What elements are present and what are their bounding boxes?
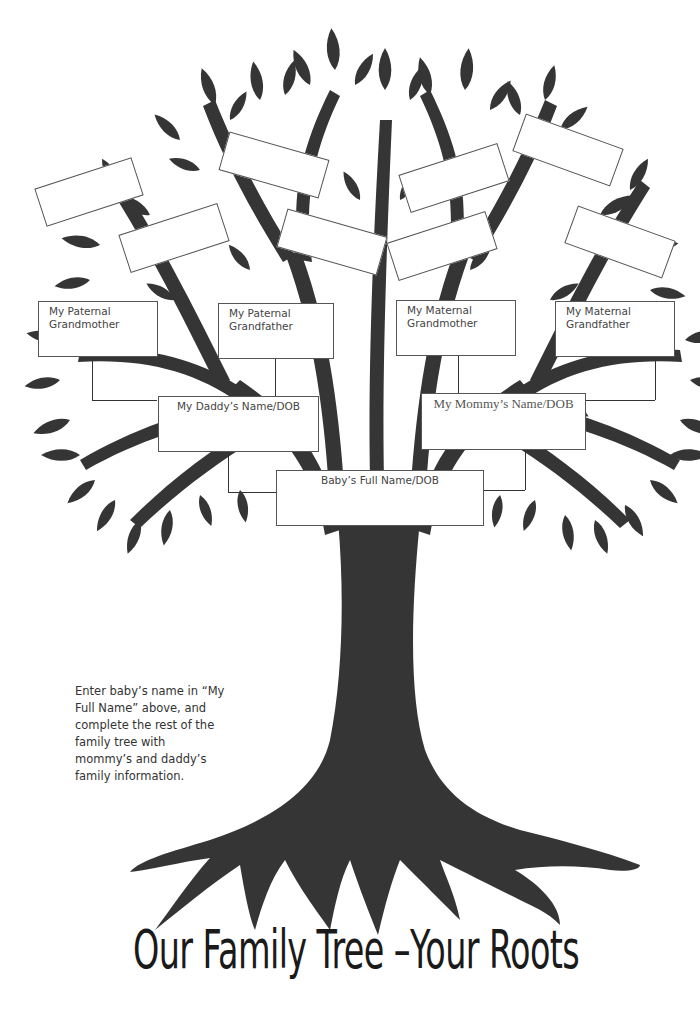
connector-line	[586, 400, 655, 401]
connector-line	[92, 355, 93, 400]
daddy-box[interactable]: My Daddy’s Name/DOB	[158, 396, 319, 452]
paternal-grandmother-box[interactable]: My Paternal Grandmother	[38, 301, 158, 357]
maternal-grandfather-box[interactable]: My Maternal Grandfather	[555, 301, 675, 357]
instructions-text: Enter baby’s name in “My Full Name” abov…	[75, 683, 225, 785]
maternal-grandmother-box[interactable]: My Maternal Grandmother	[396, 300, 516, 356]
connector-line	[228, 492, 276, 493]
baby-label: Baby’s Full Name/DOB	[321, 474, 439, 486]
paternal-grandfather-label: My Paternal Grandfather	[229, 307, 293, 332]
baby-box[interactable]: Baby’s Full Name/DOB	[276, 470, 484, 526]
paternal-grandfather-box[interactable]: My Paternal Grandfather	[218, 303, 334, 359]
page-title: Our Family Tree –Your Roots	[133, 918, 567, 981]
connector-line	[525, 450, 526, 490]
connector-line	[655, 357, 656, 400]
daddy-label: My Daddy’s Name/DOB	[177, 400, 300, 412]
maternal-grandmother-label: My Maternal Grandmother	[407, 304, 477, 329]
maternal-grandfather-label: My Maternal Grandfather	[566, 305, 631, 330]
mommy-label: My Mommy’s Name/DOB	[433, 396, 573, 411]
connector-line	[484, 490, 525, 491]
paternal-grandmother-label: My Paternal Grandmother	[49, 305, 119, 330]
connector-line	[228, 452, 229, 492]
mommy-box[interactable]: My Mommy’s Name/DOB	[421, 393, 586, 450]
connector-line	[275, 358, 276, 398]
connector-line	[92, 400, 157, 401]
